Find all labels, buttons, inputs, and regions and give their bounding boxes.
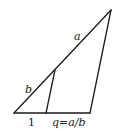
right-side [90,10,111,113]
label-one: 1 [28,116,35,129]
label-b: b [25,83,32,96]
label-q: q=a/b [52,116,86,129]
inner-parallel-segment [46,70,55,113]
hypotenuse-side [14,10,111,113]
label-a: a [74,30,81,43]
triangle-diagram: a b 1 q=a/b [0,0,115,135]
